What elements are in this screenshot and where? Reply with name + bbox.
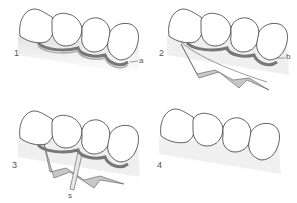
teeth-illustration: [0, 102, 148, 203]
callout-label-a: a: [139, 56, 143, 65]
step-number: 1: [14, 48, 19, 58]
callout-label-b: b: [286, 52, 290, 61]
step-number: 4: [157, 160, 162, 170]
panel-2: 2 b: [149, 0, 297, 101]
step-number: 3: [12, 160, 17, 170]
step-number: 2: [159, 48, 164, 58]
teeth-illustration: [149, 0, 297, 101]
panel-3: 3 s: [0, 102, 148, 203]
panel-4: 4: [149, 102, 297, 203]
teeth-illustration: [149, 102, 297, 203]
callout-label-s: s: [68, 191, 72, 200]
teeth-illustration: [0, 0, 148, 101]
panel-1: 1 a: [0, 0, 148, 101]
